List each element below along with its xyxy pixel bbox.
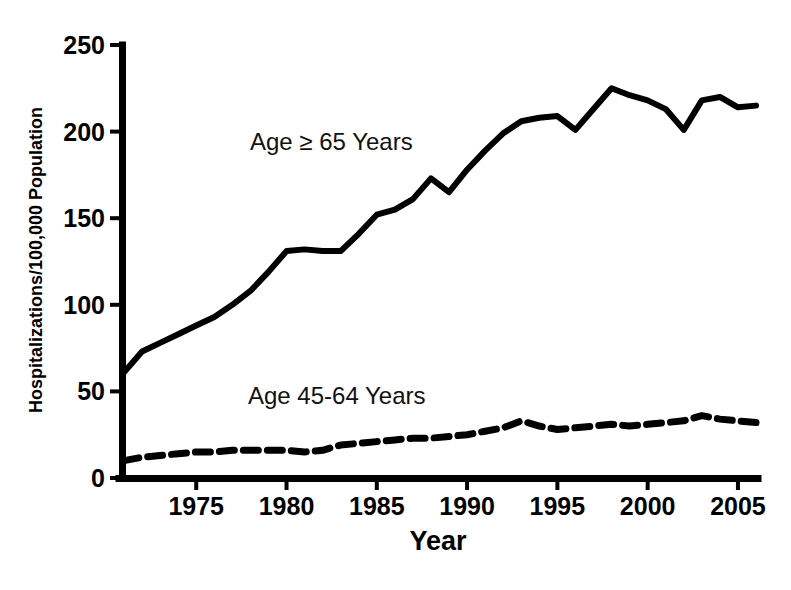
series-annotation-1: Age ≥ 65 Years: [250, 128, 413, 155]
series-line-1: [124, 88, 756, 372]
series-line-2: [124, 416, 756, 461]
x-axis-tick-labels: 1975198019851990199520002005: [168, 492, 765, 520]
series-annotation-2: Age 45-64 Years: [248, 382, 425, 409]
x-tick-label: 1985: [349, 492, 405, 520]
x-tick-label: 2000: [620, 492, 676, 520]
y-tick-label: 150: [63, 204, 105, 232]
x-tick-label: 2005: [710, 492, 766, 520]
x-tick-label: 1975: [168, 492, 224, 520]
data-series-group: [124, 88, 756, 460]
y-axis-tick-labels: 050100150200250: [63, 31, 105, 492]
y-tick-label: 0: [91, 464, 105, 492]
chart-figure: 050100150200250 197519801985199019952000…: [0, 0, 791, 590]
x-tick-label: 1995: [530, 492, 586, 520]
y-axis-title: Hospitalizations/100,000 Population: [26, 107, 46, 413]
x-tick-label: 1990: [439, 492, 495, 520]
y-tick-label: 250: [63, 31, 105, 59]
x-axis-title: Year: [409, 526, 467, 556]
y-tick-label: 200: [63, 118, 105, 146]
y-tick-label: 100: [63, 291, 105, 319]
y-tick-label: 50: [77, 377, 105, 405]
line-chart: 050100150200250 197519801985199019952000…: [0, 0, 791, 590]
x-tick-label: 1980: [259, 492, 315, 520]
